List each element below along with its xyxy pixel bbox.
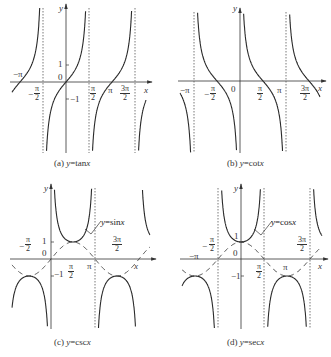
tick-x-neg-half-pi: π2 xyxy=(34,85,40,102)
x-axis-label: x xyxy=(134,262,138,271)
y-axis-label: y xyxy=(233,4,237,13)
tan-curve xyxy=(12,8,146,151)
tick-y-1: 1 xyxy=(234,232,239,241)
cosx-reference-label: y=cosx xyxy=(271,217,296,227)
tick-x-half-pi: π2 xyxy=(257,85,263,102)
tick-x-3half-pi: 3π2 xyxy=(300,85,310,102)
x-axis-label: x xyxy=(144,86,148,95)
tick-x-neg-pi: −π xyxy=(180,86,190,95)
cot-curve xyxy=(180,13,320,153)
csc-curve xyxy=(12,189,150,328)
tick-y-1: 1 xyxy=(58,60,63,69)
neg-sign: − xyxy=(19,242,24,251)
x-axis-label: x xyxy=(318,262,322,271)
panel-c-csc-graph xyxy=(10,184,156,329)
trig-graphs-canvas xyxy=(0,0,331,357)
neg-sign: − xyxy=(204,90,209,99)
origin-label: 0 xyxy=(42,249,47,258)
neg-sign: − xyxy=(202,242,207,251)
caption-d: (d) y=secx xyxy=(227,337,264,347)
tick-x-neg-half-pi: π2 xyxy=(25,236,31,253)
panel-a-tan-graph xyxy=(10,4,152,153)
tick-x-pi: π xyxy=(108,86,113,95)
caption-b: (b) y=cotx xyxy=(227,158,264,168)
tick-x-pi: π xyxy=(283,263,288,272)
neg-sign: − xyxy=(28,90,33,99)
tick-x-neg-half-pi: π2 xyxy=(210,85,216,102)
tick-x-half-pi: π2 xyxy=(68,263,74,280)
panel-b-cot-graph xyxy=(178,8,326,153)
x-axis-label: x xyxy=(318,84,322,93)
tick-x-pi: π xyxy=(277,86,282,95)
tick-x-neg-pi: −π xyxy=(13,70,23,79)
tick-y-neg1: −1 xyxy=(54,270,64,279)
tick-x-3half-pi: 3π2 xyxy=(112,236,122,253)
caption-c: (c) y=cscx xyxy=(54,337,91,347)
tick-x-neg-half-pi: π2 xyxy=(209,236,215,253)
y-axis-label: y xyxy=(234,184,238,193)
tick-y-neg1: −1 xyxy=(231,272,241,281)
tick-x-3half-pi: 3π2 xyxy=(297,236,307,253)
tick-x-3half-pi: 3π2 xyxy=(120,85,130,102)
tick-x-neg-pi: −π xyxy=(189,252,199,261)
y-axis-label: y xyxy=(44,184,48,193)
y-axis-label: y xyxy=(59,4,63,13)
tick-y-neg1: −1 xyxy=(70,95,80,104)
tick-x-half-pi: π2 xyxy=(256,263,262,280)
tick-x-half-pi: π2 xyxy=(90,85,96,102)
origin-label: 0 xyxy=(58,73,63,82)
caption-a: (a) y=tanx xyxy=(54,158,90,168)
sinx-reference-label: y=sinx xyxy=(101,217,125,227)
panel-d-sec-graph xyxy=(180,184,328,329)
tick-x-pi: π xyxy=(87,262,92,271)
origin-label: 0 xyxy=(233,249,238,258)
origin-label: 0 xyxy=(231,85,236,94)
tick-y-1: 1 xyxy=(42,237,47,246)
